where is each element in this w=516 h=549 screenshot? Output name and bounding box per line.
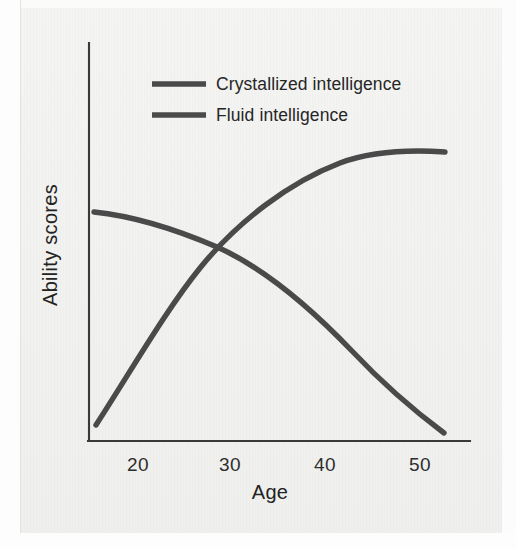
series-line-crystallized-intelligence — [96, 151, 445, 425]
chart-legend: Crystallized intelligence Fluid intellig… — [152, 74, 401, 125]
x-tick-label: 40 — [314, 454, 336, 475]
axis-group — [88, 43, 470, 441]
y-axis-title: Ability scores — [39, 184, 61, 306]
x-tick-label-group: 20 30 40 50 — [127, 454, 431, 475]
figure-root: Crystallized intelligence Fluid intellig… — [0, 0, 516, 549]
x-tick-label: 20 — [127, 454, 149, 475]
line-chart: Crystallized intelligence Fluid intellig… — [0, 0, 516, 549]
series-group — [94, 151, 445, 433]
x-tick-label: 30 — [219, 454, 241, 475]
legend-entry-crystallized-intelligence[interactable]: Crystallized intelligence — [152, 74, 401, 94]
legend-label: Crystallized intelligence — [216, 74, 401, 94]
legend-entry-fluid-intelligence[interactable]: Fluid intelligence — [152, 105, 348, 125]
x-tick-label: 50 — [409, 454, 431, 475]
x-axis-title: Age — [252, 481, 289, 503]
legend-label: Fluid intelligence — [216, 105, 348, 125]
series-line-fluid-intelligence — [94, 212, 444, 433]
